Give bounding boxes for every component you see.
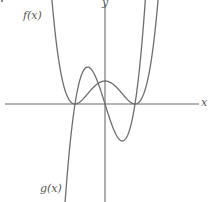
f-curve-label: f(x) [23, 10, 42, 21]
x-axis-label: x [201, 97, 207, 108]
g-curve-label: g(x) [40, 183, 62, 194]
corner-mark [1, 0, 3, 2]
function-graph [0, 0, 211, 202]
y-axis-label: y [102, 0, 108, 8]
